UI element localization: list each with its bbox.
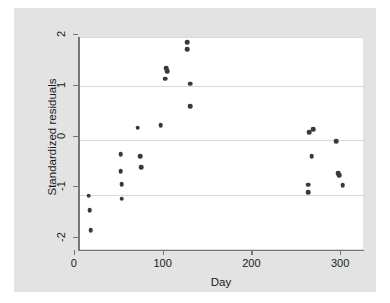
x-tick-label: 300 [320,257,360,270]
x-axis-line [79,250,364,251]
data-point [87,208,92,213]
data-point [87,193,92,198]
data-point [119,182,124,187]
gridline-y-1 [80,86,364,87]
scatter-plot-figure: 0100200300 210-1-2 Day Standardized resi… [0,0,390,303]
data-point [165,69,170,74]
gridline-y-0 [80,140,364,141]
figure-canvas: 0100200300 210-1-2 Day Standardized resi… [14,8,376,292]
data-point [306,182,311,187]
x-tick-label: 200 [231,257,271,270]
x-tick [163,250,164,255]
data-point [119,196,124,201]
data-point [309,154,314,159]
y-tick [73,34,78,35]
y-axis-line [78,37,80,251]
data-point [158,123,163,128]
y-axis-title: Standardized residuals [46,37,58,237]
data-point [311,127,316,132]
data-point [185,40,190,45]
data-point [163,76,168,81]
data-point [185,47,190,52]
data-point [88,228,93,233]
y-tick [73,85,78,86]
data-point [340,183,345,188]
data-point [119,152,124,157]
plot-area [79,37,363,250]
x-tick-label: 0 [54,257,94,270]
data-point [306,190,311,195]
x-axis-title: Day [79,276,363,288]
data-point [337,173,342,178]
gridline-y-2 [80,37,364,38]
data-point [334,139,339,144]
data-point [138,154,143,159]
x-tick [74,250,75,255]
y-tick [73,186,78,187]
data-point [139,165,144,170]
x-tick [251,250,252,255]
y-tick [73,136,78,137]
x-tick-label: 100 [143,257,183,270]
data-point [119,169,124,174]
y-tick [73,237,78,238]
data-point [188,81,193,86]
x-tick [340,250,341,255]
data-point [188,104,193,109]
data-point [135,125,140,130]
